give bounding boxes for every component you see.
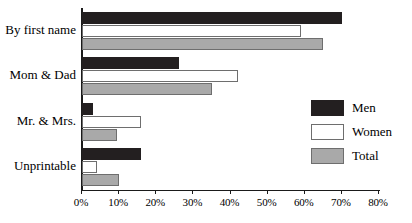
x-axis-tick-label: 40% — [220, 196, 240, 208]
x-axis-tick-label: 50% — [257, 196, 277, 208]
bar-women — [82, 116, 141, 128]
x-axis-tick — [230, 190, 231, 194]
bar-men — [82, 148, 141, 160]
category-label: Mr. & Mrs. — [17, 114, 76, 128]
bar-men — [82, 103, 93, 115]
bar-women — [82, 161, 97, 173]
x-axis-tick-label: 80% — [368, 196, 388, 208]
bar-total — [82, 129, 117, 141]
x-axis-tick — [118, 190, 119, 194]
x-axis-tick-label: 60% — [294, 196, 314, 208]
legend-swatch-total-icon — [311, 148, 344, 164]
bar-group — [82, 8, 379, 54]
bar-total — [82, 174, 119, 186]
bar-men — [82, 12, 342, 24]
x-axis-tick — [304, 190, 305, 194]
category-label: By first name — [5, 23, 76, 37]
bar-group — [82, 54, 379, 100]
category-label: Mom & Dad — [10, 68, 76, 82]
bar-total — [82, 38, 323, 50]
x-axis-tick — [81, 190, 82, 194]
x-axis-tick — [192, 190, 193, 194]
bar-chart: 0%10%20%30%40%50%60%70%80% By first name… — [0, 0, 412, 223]
x-axis-tick — [267, 190, 268, 194]
legend-label-women: Women — [352, 123, 392, 141]
x-axis-tick — [341, 190, 342, 194]
x-axis-tick-label: 20% — [145, 196, 165, 208]
bar-women — [82, 25, 301, 37]
x-axis-tick-label: 0% — [74, 196, 88, 208]
legend-label-total: Total — [352, 147, 379, 165]
x-axis-tick — [378, 190, 379, 194]
x-axis-tick-label: 70% — [331, 196, 351, 208]
legend-label-men: Men — [352, 99, 376, 117]
x-axis-tick-label: 30% — [183, 196, 203, 208]
legend-swatch-men-icon — [311, 100, 344, 116]
category-label: Unprintable — [14, 159, 76, 173]
x-axis-line — [81, 190, 380, 191]
bar-men — [82, 57, 179, 69]
bar-total — [82, 83, 212, 95]
x-axis-tick-label: 10% — [108, 196, 128, 208]
bar-women — [82, 70, 238, 82]
x-axis-tick — [155, 190, 156, 194]
legend-swatch-women-icon — [311, 124, 344, 140]
